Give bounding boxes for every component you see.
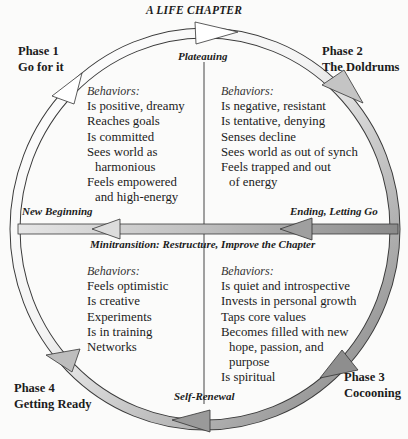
behavior-item: harmonious xyxy=(87,160,185,175)
behaviors-phase-1: Behaviors: Is positive, dreamy Reaches g… xyxy=(87,84,185,206)
diagram-title: A LIFE CHAPTER xyxy=(146,4,242,16)
minitransition-label: Minitransition: Restructure, Improve the… xyxy=(90,238,315,250)
behavior-item: Is in training xyxy=(87,325,168,340)
behavior-item: Is positive, dreamy xyxy=(87,99,185,114)
arrowhead-plateauing-icon xyxy=(195,22,238,44)
behaviors-header: Behaviors: xyxy=(221,84,358,99)
behavior-item: Invests in personal growth xyxy=(221,294,356,309)
behavior-item: Sees world as xyxy=(87,145,185,160)
behaviors-header: Behaviors: xyxy=(87,84,185,99)
behavior-item: Is tentative, denying xyxy=(221,114,358,129)
phase-4-number: Phase 4 xyxy=(14,380,91,396)
phase-1-number: Phase 1 xyxy=(18,43,64,59)
phase-3-name: Cocooning xyxy=(344,385,401,401)
behaviors-phase-3: Behaviors: Is quiet and introspective In… xyxy=(221,264,356,386)
new-beginning-label: New Beginning xyxy=(22,205,93,217)
phase-2-number: Phase 2 xyxy=(322,43,399,59)
behavior-item: Is quiet and introspective xyxy=(221,279,356,294)
phase-2-label: Phase 2 The Doldrums xyxy=(322,43,399,75)
behavior-item: Feels optimistic xyxy=(87,279,168,294)
behavior-item: hope, passion, and xyxy=(221,340,356,355)
behavior-item: purpose xyxy=(221,355,356,370)
behavior-item: Is creative xyxy=(87,294,168,309)
ending-letting-go-label: Ending, Letting Go xyxy=(290,205,378,217)
phase-2-name: The Doldrums xyxy=(322,59,399,75)
plateauing-label: Plateauing xyxy=(178,50,228,62)
behavior-item: Is committed xyxy=(87,130,185,145)
behavior-item: Experiments xyxy=(87,310,168,325)
behavior-item: Feels trapped and out xyxy=(221,160,358,175)
self-renewal-label: Self-Renewal xyxy=(174,390,235,402)
phase-1-label: Phase 1 Go for it xyxy=(18,43,64,75)
phase-4-name: Getting Ready xyxy=(14,396,91,412)
behavior-item: Is negative, resistant xyxy=(221,99,358,114)
phase-1-name: Go for it xyxy=(18,59,64,75)
behavior-item: Senses decline xyxy=(221,130,358,145)
phase-4-label: Phase 4 Getting Ready xyxy=(14,380,91,412)
behavior-item: Feels empowered xyxy=(87,175,185,190)
behavior-item: and high-energy xyxy=(87,190,185,205)
behaviors-phase-4: Behaviors: Feels optimistic Is creative … xyxy=(87,264,168,355)
behavior-item: of energy xyxy=(221,175,358,190)
behaviors-header: Behaviors: xyxy=(221,264,356,279)
minitransition-arrow xyxy=(18,218,398,240)
behaviors-phase-2: Behaviors: Is negative, resistant Is ten… xyxy=(221,84,358,190)
behavior-item: Is spiritual xyxy=(221,370,356,385)
behavior-item: Reaches goals xyxy=(87,114,185,129)
behavior-item: Sees world as out of synch xyxy=(221,145,358,160)
behavior-item: Becomes filled with new xyxy=(221,325,356,340)
behaviors-header: Behaviors: xyxy=(87,264,168,279)
behavior-item: Taps core values xyxy=(221,310,356,325)
behavior-item: Networks xyxy=(87,340,168,355)
